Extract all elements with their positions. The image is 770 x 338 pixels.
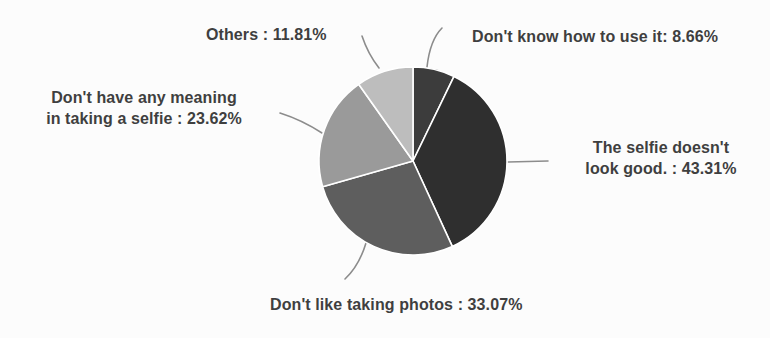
label-not-good: The selfie doesn't look good. : 43.31% <box>566 137 756 179</box>
label-others: Others : 11.81% <box>206 24 327 45</box>
pie-slices <box>319 67 507 255</box>
leader-line-no-meaning <box>280 113 322 133</box>
leader-line-dont-know <box>427 28 442 67</box>
leader-line-dont-like <box>345 243 366 279</box>
leader-line-others <box>362 36 379 68</box>
label-no-meaning: Don't have any meaning in taking a selfi… <box>35 87 253 129</box>
leader-line-not-good <box>508 161 548 162</box>
label-dont-know: Don't know how to use it: 8.66% <box>472 26 718 47</box>
selfie-survey-pie-figure: Others : 11.81% Don't know how to use it… <box>0 0 770 338</box>
label-dont-like: Don't like taking photos : 33.07% <box>270 294 522 315</box>
